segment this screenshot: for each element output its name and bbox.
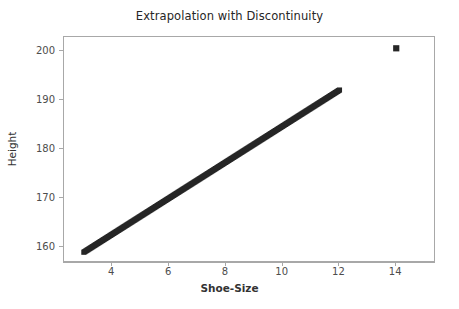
x-tick-label: 12 — [332, 266, 345, 277]
x-tick-mark — [338, 262, 339, 266]
x-tick-label: 4 — [108, 266, 114, 277]
x-tick-label: 8 — [222, 266, 228, 277]
y-tick-label: 160 — [36, 241, 55, 252]
chart-figure: Extrapolation with Discontinuity Height … — [0, 0, 459, 309]
x-tick-mark — [111, 262, 112, 266]
y-tick-mark — [59, 197, 63, 198]
x-tick-label: 6 — [165, 266, 171, 277]
x-tick-mark — [168, 262, 169, 266]
plot-area — [63, 36, 435, 262]
x-tick-label: 10 — [275, 266, 288, 277]
y-tick-label: 200 — [36, 44, 55, 55]
plot-canvas — [64, 37, 436, 263]
trend-line-markers — [81, 87, 342, 254]
y-tick-mark — [59, 99, 63, 100]
x-tick-label: 14 — [389, 266, 402, 277]
x-axis-label: Shoe-Size — [0, 282, 459, 294]
x-axis-spine — [63, 262, 435, 263]
x-tick-mark — [395, 262, 396, 266]
discontinuity-marker — [393, 45, 399, 51]
x-tick-mark — [225, 262, 226, 266]
y-axis-label: Height — [6, 132, 18, 167]
y-tick-mark — [59, 246, 63, 247]
x-tick-mark — [282, 262, 283, 266]
y-tick-label: 170 — [36, 192, 55, 203]
y-tick-mark — [59, 148, 63, 149]
chart-title: Extrapolation with Discontinuity — [0, 9, 459, 23]
y-tick-label: 190 — [36, 93, 55, 104]
y-tick-label: 180 — [36, 143, 55, 154]
y-tick-mark — [59, 50, 63, 51]
